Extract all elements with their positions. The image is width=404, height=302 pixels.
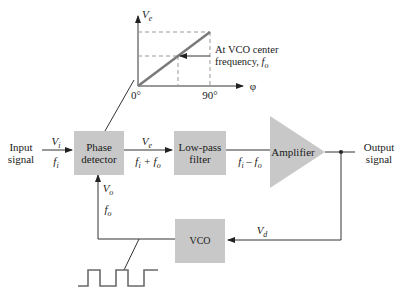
output-line2: signal: [356, 153, 402, 165]
diff-op: – f: [244, 155, 258, 167]
ve-text: V: [142, 135, 149, 147]
low-pass-line1: Low-pass: [174, 141, 226, 153]
output-signal-label: Output signal: [356, 141, 402, 165]
phase-detector-label: Phase detector: [74, 141, 124, 165]
graph-y-axis-label: Ve: [142, 8, 162, 25]
graph-tick-90: 90°: [198, 89, 222, 101]
low-pass-line2: filter: [174, 153, 226, 165]
amplifier-label: Amplifier: [268, 146, 318, 158]
fi-sub: i: [56, 161, 58, 170]
annotation-line1: At VCO center: [215, 44, 295, 56]
ve-sub: e: [149, 141, 153, 150]
fo-sub: o: [108, 209, 112, 218]
square-wave-icon: [78, 270, 158, 286]
vd-sub: d: [263, 230, 267, 239]
fi-label: fi: [46, 155, 66, 172]
vi-label: Vi: [46, 135, 66, 152]
sum-op: + f: [141, 155, 157, 167]
graph-tick-0: 0°: [128, 89, 144, 101]
vo-label: Vo: [100, 182, 116, 199]
phase-graph: [101, 16, 243, 138]
vd-label: Vd: [252, 224, 272, 241]
y-axis-sub: e: [149, 14, 153, 23]
difference-frequency-label: fi – fo: [230, 155, 270, 172]
phase-detector-line2: detector: [74, 153, 124, 165]
vco-label: VCO: [175, 235, 225, 247]
annotation-line2-text: frequency,: [215, 56, 262, 67]
vo-sub: o: [109, 188, 113, 197]
graph-annotation: At VCO center frequency, fo: [215, 44, 295, 72]
low-pass-filter-label: Low-pass filter: [174, 141, 226, 165]
vi-sub: i: [58, 141, 60, 150]
graph-x-axis-label: φ: [246, 80, 260, 92]
phase-detector-line1: Phase: [74, 141, 124, 153]
ve-label: Ve: [137, 135, 157, 152]
input-line2: signal: [0, 153, 42, 165]
y-axis-text: V: [142, 8, 149, 20]
input-line1: Input: [0, 141, 42, 153]
annotation-line2: frequency, fo: [215, 56, 295, 72]
fo-label: fo: [100, 203, 116, 220]
input-signal-label: Input signal: [0, 141, 42, 165]
annotation-sub: o: [264, 61, 268, 70]
sum-frequency-label: fi + fo: [128, 155, 168, 172]
output-line1: Output: [356, 141, 402, 153]
sum-sub-o: o: [157, 161, 161, 170]
diff-sub-o: o: [258, 161, 262, 170]
